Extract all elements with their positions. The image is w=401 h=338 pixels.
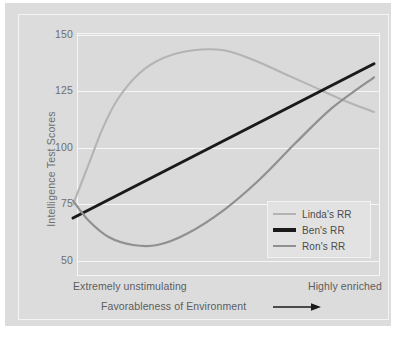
series-line-ben-s-rr [73,64,374,218]
figure-container: 150 125 100 75 50 Intelligence Test Scor… [0,0,401,338]
series-line-linda-s-rr [73,49,374,204]
series-line-ron-s-rr [73,77,374,246]
chart-curves [0,0,401,338]
